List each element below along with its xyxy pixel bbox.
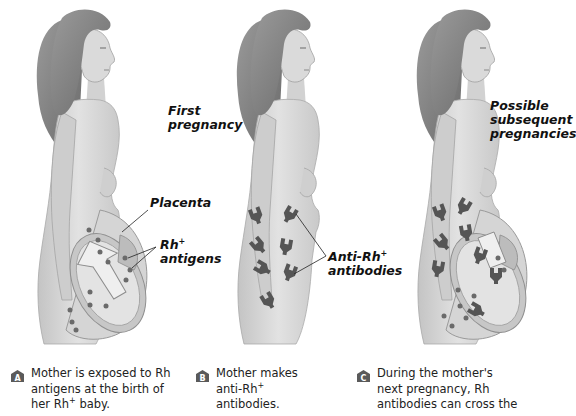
caption-c: During the mother's next pregnancy, Rh a… — [377, 366, 517, 413]
panel-c-illustration — [417, 9, 541, 344]
placenta-label: Placenta — [150, 196, 211, 210]
panel-b-illustration — [237, 9, 326, 344]
caption-a: Mother is exposed to Rh antigens at the … — [31, 366, 171, 413]
badge-c-icon: C — [357, 370, 370, 382]
rh-antigens-label: Rh+ antigens — [160, 238, 221, 266]
badge-a-icon: A — [11, 370, 24, 382]
panel-c-heading: Possible subsequent pregnancies — [490, 99, 576, 141]
badge-b-icon: B — [196, 370, 209, 382]
anti-rh-antibodies-label: Anti-Rh+ antibodies — [328, 250, 402, 278]
svg-text:A: A — [14, 374, 21, 383]
svg-text:B: B — [199, 374, 205, 383]
caption-b: Mother makes anti-Rh+ antibodies. — [216, 366, 298, 413]
svg-text:C: C — [361, 374, 367, 383]
panel-a-illustration — [37, 9, 161, 344]
panel-a-heading: First pregnancy — [168, 104, 242, 132]
